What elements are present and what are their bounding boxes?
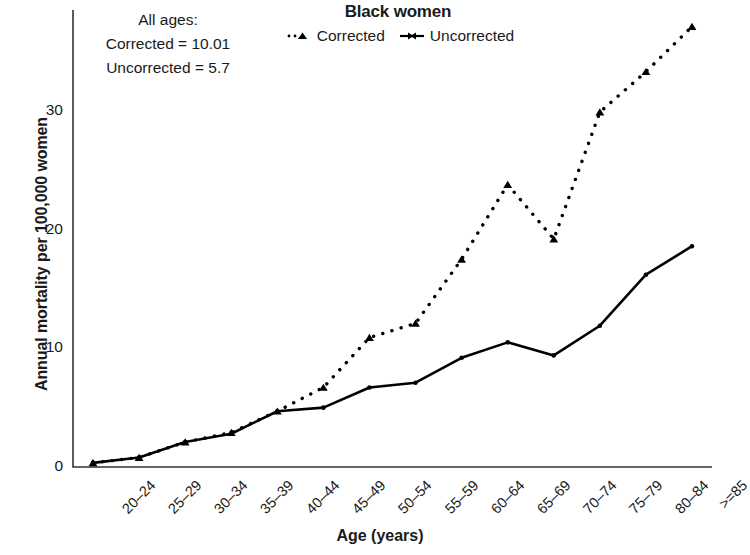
y-tick-label: 30 [23, 101, 63, 119]
y-tick-label: 10 [23, 338, 63, 356]
y-tick-label: 0 [23, 457, 63, 475]
x-tick-label: >=85 [716, 477, 750, 512]
y-tick-label: 20 [23, 220, 63, 238]
series-corrected [89, 23, 697, 466]
series-uncorrected [91, 244, 695, 465]
